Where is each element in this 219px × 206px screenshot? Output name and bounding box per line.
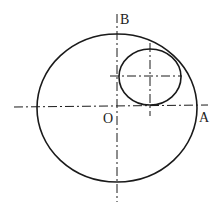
x-axis [14,105,208,107]
label-a: A [199,110,210,125]
label-b: B [120,12,129,27]
geometry-diagram: B O A [0,0,219,206]
label-o: O [103,111,113,126]
